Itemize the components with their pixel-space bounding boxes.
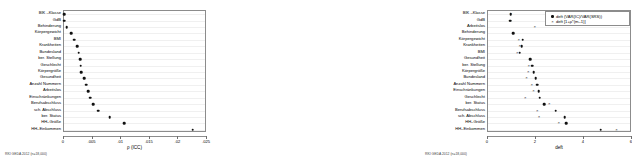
category-label: Behinderung [462,30,485,34]
data-point: × [516,51,518,55]
gridline [64,123,205,124]
category-label: GdB [477,18,485,22]
gridline [488,117,630,118]
category-label: Anzahl Nummern [29,82,61,86]
data-point: × [548,102,550,106]
gridline [488,27,630,28]
category-label: Berufsabschluss [31,101,61,105]
category-label: Geschlecht [41,63,61,67]
category-label: Bundesland [463,75,485,79]
gridline [64,117,205,118]
data-point [108,116,111,119]
source-note-left: RKI GEDA 2012 (n=18,000) [5,153,47,156]
category-label: Arbeitslos [467,24,485,28]
category-label: Krankheiten [39,43,61,47]
category-label: Anzahl Nummern [453,82,485,86]
data-point [63,19,66,22]
category-label: HH–Größe [465,120,485,124]
category-label: Körpergröße [462,69,485,73]
plot-area-deft: ×××××××××××××××××× [487,10,631,132]
data-point: × [534,25,536,29]
category-label: Behinderung [38,24,61,28]
category-label: ber. Status [41,114,61,118]
legend-x-icon: × [549,20,556,24]
data-point [543,103,546,106]
category-label: HH–Einkommen [31,127,61,131]
data-point [518,51,521,54]
category-label: GdB [53,18,61,22]
data-point [191,128,194,131]
data-point [92,103,95,106]
data-point [532,71,535,74]
data-point: × [538,115,540,119]
gridline [488,104,630,105]
data-point: × [525,76,527,80]
data-point [600,128,603,131]
gridline [64,59,205,60]
data-point: × [528,63,530,67]
data-point: × [558,121,560,125]
x-axis-title: deft [555,146,563,151]
gridline [64,21,205,22]
data-point: × [615,128,617,132]
data-point [87,90,90,93]
gridline [488,53,630,54]
category-label: sch. Abschluss [458,114,485,118]
data-point [97,109,100,112]
data-point: × [530,83,532,87]
gridline [64,53,205,54]
gridline [488,40,630,41]
gridline [488,59,630,60]
data-point [531,64,534,67]
category-label: Gesundheit [464,56,485,60]
gridline [64,66,205,67]
data-point: × [518,44,520,48]
x-axis-tick-label: .025 [202,140,210,144]
gridline [488,33,630,34]
category-label: ber. Status [465,101,485,105]
data-point [538,96,541,99]
gridline [64,98,205,99]
category-label: BIK –Klasse [463,11,485,15]
gridline [64,33,205,34]
category-label: sch. Abschluss [34,107,61,111]
category-label: Berufsabschluss [455,107,485,111]
x-axis-line [63,136,206,137]
x-axis-tick-label: 4 [582,140,584,144]
gridline [64,91,205,92]
gridline [488,98,630,99]
data-point [538,90,541,93]
data-point [512,32,515,35]
gridline [488,91,630,92]
data-point [565,122,568,125]
category-label: ber. Stellung [38,56,61,60]
data-point [83,77,86,80]
gridline [64,27,205,28]
category-label: Einschränkungen [29,95,61,99]
plot-area-icc [63,10,206,132]
panel-icc: BIK –KlasseGdBBehinderungKörpergewichtBM… [0,0,214,166]
category-label: BMI [54,37,61,41]
gridline [488,46,630,47]
legend: deft (VAR(IC)/VAR(SRS)) × deft [1+ρ*(m–1… [545,11,630,26]
data-point: × [517,38,519,42]
data-point [79,58,82,61]
category-label: Körpergewicht [459,37,485,41]
gridline [488,111,630,112]
data-point [564,116,567,119]
data-point [536,84,539,87]
data-point [554,109,557,112]
data-point: × [524,96,526,100]
category-label: HH–Größe [41,120,61,124]
gridline [488,72,630,73]
gridline [64,111,205,112]
data-point: × [527,70,529,74]
category-label: BIK –Klasse [39,11,61,15]
category-label: Geschlecht [465,95,485,99]
data-point [79,64,82,67]
data-point: × [532,89,534,93]
category-label: BMI [478,50,485,54]
gridline [488,85,630,86]
x-axis-tick-label: .005 [88,140,96,144]
